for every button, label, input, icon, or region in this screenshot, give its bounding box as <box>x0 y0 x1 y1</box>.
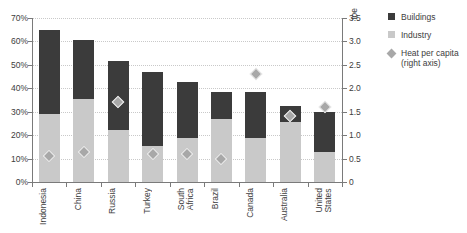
bar-segment-buildings <box>142 72 163 146</box>
y-axis-right-tick-label: 3.0 <box>349 37 371 45</box>
x-axis-label: South Africa <box>177 188 195 210</box>
y-axis-right-tick <box>343 65 347 66</box>
x-axis-tick <box>32 183 33 187</box>
bar-segment-industry <box>39 114 60 182</box>
y-axis-right-tick <box>343 112 347 113</box>
x-axis-tick <box>342 183 343 187</box>
y-axis-right-tick <box>343 135 347 136</box>
bar-segment-buildings <box>211 92 232 119</box>
y-axis-right-tick <box>343 18 347 19</box>
bar-segment-buildings <box>314 112 335 152</box>
chart-legend: Buildings Industry Heat per capita (righ… <box>388 12 467 75</box>
x-axis-label: Brazil <box>211 188 220 209</box>
x-axis-tick <box>204 183 205 187</box>
x-axis-label: Russia <box>108 188 117 214</box>
bar-segment-industry <box>314 152 335 182</box>
bar-segment-buildings <box>245 92 266 138</box>
y-axis-right-tick-label: 2.0 <box>349 84 371 92</box>
bar-segment-industry <box>245 138 266 183</box>
y-axis-left-tick-label: 10% <box>0 155 28 163</box>
bar-segment-buildings <box>39 30 60 114</box>
legend-label-buildings: Buildings <box>401 12 467 22</box>
y-axis-right-tick <box>343 41 347 42</box>
bar-segment-buildings <box>73 40 94 99</box>
x-axis-tick <box>170 183 171 187</box>
legend-item-buildings: Buildings <box>388 12 467 23</box>
x-axis-tick <box>308 183 309 187</box>
gridline <box>32 182 342 183</box>
y-axis-right-line <box>342 18 343 183</box>
y-axis-left-tick-label: 30% <box>0 108 28 116</box>
legend-swatch-industry-icon <box>388 31 395 38</box>
y-axis-left-tick-label: 50% <box>0 61 28 69</box>
bar-segment-industry <box>108 130 129 182</box>
y-axis-right-tick-label: 2.5 <box>349 61 371 69</box>
x-axis-label: Canada <box>246 188 255 218</box>
legend-label-heat-per-capita: Heat per capita (right axis) <box>401 48 467 68</box>
y-axis-right-tick <box>343 159 347 160</box>
bar-group <box>280 18 301 182</box>
x-axis-label: Indonesia <box>39 188 48 225</box>
x-axis-tick <box>66 183 67 187</box>
y-axis-left-tick-label: 40% <box>0 84 28 92</box>
y-axis-right-title: toe <box>349 8 359 20</box>
x-axis-label: Australia <box>280 188 289 221</box>
y-axis-left-tick-label: 0% <box>0 178 28 186</box>
y-axis-left-tick-label: 20% <box>0 131 28 139</box>
x-axis-tick <box>273 183 274 187</box>
x-axis-tick <box>101 183 102 187</box>
y-axis-left-tick-label: 60% <box>0 37 28 45</box>
y-axis-right-tick-label: 1.0 <box>349 131 371 139</box>
legend-label-industry: Industry <box>401 30 467 40</box>
x-axis-tick <box>239 183 240 187</box>
bar-segment-industry <box>280 122 301 182</box>
legend-item-heat-per-capita: Heat per capita (right axis) <box>388 48 467 68</box>
x-axis-tick <box>135 183 136 187</box>
y-axis-right-tick <box>343 88 347 89</box>
legend-item-industry: Industry <box>388 30 467 41</box>
y-axis-right-tick <box>343 182 347 183</box>
bar-segment-buildings <box>177 82 198 137</box>
x-axis-label: Turkey <box>143 188 152 214</box>
y-axis-right-tick-label: 1.5 <box>349 108 371 116</box>
y-axis-left-tick-label: 70% <box>0 14 28 22</box>
legend-swatch-buildings-icon <box>388 13 395 20</box>
chart-container: 0%10%20%30%40%50%60%70% 00.51.01.52.02.5… <box>0 0 467 233</box>
bar-segment-industry <box>73 99 94 182</box>
x-axis-label: United States <box>315 188 333 213</box>
plot-area <box>32 18 342 182</box>
bar-segment-industry <box>211 119 232 182</box>
y-axis-right-tick-label: 0 <box>349 178 371 186</box>
legend-swatch-diamond-icon <box>387 49 397 59</box>
bar-group <box>245 18 266 182</box>
x-axis-label: China <box>74 188 83 210</box>
y-axis-right-tick-label: 0.5 <box>349 155 371 163</box>
